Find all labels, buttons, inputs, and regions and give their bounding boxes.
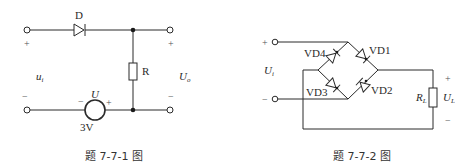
- vd1-label: VD1: [369, 44, 390, 56]
- vd2-label: VD2: [371, 84, 392, 96]
- resistor-r-icon: [129, 63, 137, 80]
- input-plus: +: [262, 37, 268, 48]
- source-value: 3V: [80, 121, 94, 133]
- output-plus: +: [445, 73, 451, 84]
- input-voltage-label: Ui: [264, 64, 274, 78]
- output-minus: −: [445, 115, 451, 126]
- output-terminal-top: [167, 27, 173, 33]
- figure-7-7-1: D U − + 3V R + − + − ui Uo 题 7-7-1 图: [22, 9, 191, 163]
- junction-dot: [131, 108, 136, 113]
- output-terminal-bottom: [167, 107, 173, 113]
- source-label: U: [91, 88, 100, 100]
- diode-label: D: [75, 9, 83, 21]
- vd3-label: VD3: [306, 86, 328, 98]
- input-plus: +: [24, 38, 30, 49]
- input-minus: −: [262, 94, 268, 105]
- load-resistor-icon: [429, 88, 437, 107]
- resistor-label: R: [142, 65, 150, 77]
- input-terminal-plus: [272, 39, 278, 45]
- vd4-label: VD4: [304, 47, 326, 59]
- input-terminal-bottom: [24, 107, 30, 113]
- output-plus: +: [168, 38, 174, 49]
- input-terminal-top: [24, 27, 30, 33]
- load-label: RL: [415, 91, 427, 105]
- source-plus: +: [106, 97, 112, 108]
- output-voltage-label: Uo: [179, 70, 191, 84]
- circuit-figures: D U − + 3V R + − + − ui Uo 题 7-7-1 图: [0, 0, 461, 167]
- input-minus: −: [22, 91, 28, 102]
- source-minus: −: [78, 96, 84, 107]
- caption-7-7-1: 题 7-7-1 图: [85, 150, 143, 163]
- diode-d-icon: [74, 24, 85, 36]
- caption-7-7-2: 题 7-7-2 图: [333, 150, 391, 163]
- output-minus: −: [168, 91, 174, 102]
- output-voltage-label: UL: [443, 91, 455, 105]
- input-terminal-minus: [272, 96, 278, 102]
- figure-7-7-2: + − Ui VD4 VD1 V: [262, 37, 455, 163]
- junction-dot: [131, 28, 136, 33]
- input-voltage-label: ui: [36, 70, 44, 84]
- voltage-source-icon: [85, 100, 105, 120]
